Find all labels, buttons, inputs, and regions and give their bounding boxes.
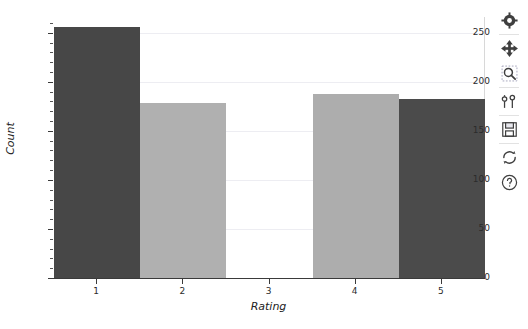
save-floppy-icon[interactable] — [496, 117, 522, 142]
y-tick-minor — [50, 209, 53, 210]
y-tick-minor — [50, 249, 53, 250]
chart-title — [53, 0, 484, 2]
pan-icon[interactable] — [496, 36, 522, 61]
toolbar-separator — [499, 143, 519, 144]
x-tick-label: 1 — [81, 286, 111, 296]
y-tick-minor — [50, 52, 53, 53]
y-tick-minor — [50, 170, 53, 171]
y-tick-minor — [50, 190, 53, 191]
y-tick-minor — [50, 62, 53, 63]
toolbar-separator — [499, 34, 519, 35]
y-tick-mark — [48, 33, 53, 34]
figure-toolbar — [490, 0, 528, 329]
y-tick-minor — [50, 23, 53, 24]
y-tick-mark — [48, 278, 53, 279]
y-tick-label: 250 — [446, 27, 490, 37]
y-tick-minor — [50, 43, 53, 44]
toolbar-separator — [499, 115, 519, 116]
reset-refresh-icon[interactable] — [496, 145, 522, 170]
x-tick-mark — [355, 279, 356, 284]
bar-4[interactable] — [313, 94, 399, 278]
x-tick-mark — [441, 279, 442, 284]
y-tick-label: 50 — [446, 223, 490, 233]
y-tick-mark — [48, 82, 53, 83]
x-tick-mark — [96, 279, 97, 284]
subplot-sliders-icon[interactable] — [496, 89, 522, 114]
toolbar-separator — [499, 87, 519, 88]
x-axis-title: Rating — [53, 300, 484, 313]
y-tick-minor — [50, 72, 53, 73]
x-tick-mark — [182, 279, 183, 284]
x-tick-label: 3 — [254, 286, 284, 296]
y-tick-minor — [50, 150, 53, 151]
y-tick-label: 100 — [446, 174, 490, 184]
y-tick-minor — [50, 219, 53, 220]
x-tick-mark — [269, 279, 270, 284]
y-tick-mark — [48, 180, 53, 181]
bar-1[interactable] — [54, 27, 140, 278]
y-tick-minor — [50, 268, 53, 269]
y-tick-label: 200 — [446, 76, 490, 86]
y-tick-label: 150 — [446, 125, 490, 135]
y-tick-minor — [50, 111, 53, 112]
zoom-rect-icon[interactable] — [496, 61, 522, 86]
x-tick-label: 4 — [340, 286, 370, 296]
y-tick-minor — [50, 200, 53, 201]
y-tick-mark — [48, 229, 53, 230]
y-tick-minor — [50, 101, 53, 102]
x-tick-label: 5 — [426, 286, 456, 296]
y-tick-label: 0 — [446, 272, 490, 282]
y-axis-title: Count — [4, 109, 17, 169]
y-tick-minor — [50, 258, 53, 259]
help-question-icon[interactable] — [496, 170, 522, 195]
figure-canvas: 050100150200250 12345 Count Rating — [0, 0, 490, 329]
y-tick-minor — [50, 160, 53, 161]
y-tick-minor — [50, 239, 53, 240]
y-tick-minor — [50, 141, 53, 142]
y-tick-minor — [50, 92, 53, 93]
bars-layer — [54, 17, 484, 278]
x-tick-label: 2 — [167, 286, 197, 296]
y-tick-minor — [50, 121, 53, 122]
y-tick-mark — [48, 131, 53, 132]
configure-subplots-gear-icon[interactable] — [496, 8, 522, 33]
bar-2[interactable] — [140, 103, 226, 278]
